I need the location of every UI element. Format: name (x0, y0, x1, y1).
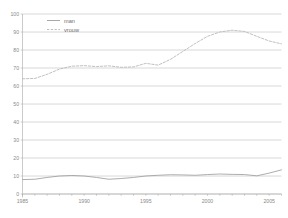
x-tick-label: 1990 (78, 198, 90, 204)
legend-label-man: man (64, 18, 75, 24)
y-tick-label: 20 (13, 155, 19, 161)
legend: man vrouw (47, 18, 80, 33)
series-line-man (23, 170, 282, 180)
y-tick-label: 40 (13, 119, 19, 125)
x-axis-ticks: 19851990199520002005 (17, 194, 282, 204)
y-tick-label: 0 (16, 191, 19, 197)
x-tick-label: 2005 (263, 198, 275, 204)
y-tick-label: 90 (13, 29, 19, 35)
y-tick-label: 60 (13, 83, 19, 89)
x-tick-label: 1985 (17, 198, 29, 204)
y-tick-label: 100 (10, 11, 19, 17)
line-chart: 0102030405060708090100 19851990199520002… (0, 0, 288, 218)
chart-canvas: 0102030405060708090100 19851990199520002… (0, 0, 288, 218)
x-tick-label: 2000 (202, 198, 214, 204)
y-tick-label: 80 (13, 47, 19, 53)
y-tick-label: 10 (13, 173, 19, 179)
y-tick-label: 70 (13, 65, 19, 71)
series-line-vrouw (23, 30, 282, 79)
y-tick-label: 50 (13, 101, 19, 107)
gridlines (23, 14, 282, 194)
y-tick-label: 30 (13, 137, 19, 143)
y-axis-ticks: 0102030405060708090100 (10, 11, 22, 197)
x-tick-label: 1995 (140, 198, 152, 204)
legend-label-vrouw: vrouw (64, 27, 80, 33)
